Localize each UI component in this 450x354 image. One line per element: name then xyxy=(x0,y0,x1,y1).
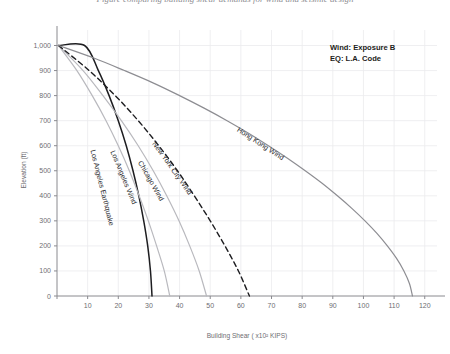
x-axis-tick-label: 40 xyxy=(176,302,184,309)
y-axis-tick-label: 300 xyxy=(39,217,51,224)
y-axis-tick-label: 100 xyxy=(39,267,51,274)
y-axis-tick-label: 500 xyxy=(39,167,51,174)
y-axis-tick-label: 200 xyxy=(39,242,51,249)
x-axis-tick-label: 60 xyxy=(237,302,245,309)
annotation-eq-code: EQ: L.A. Code xyxy=(330,54,381,63)
chart-svg: Los Angeles EarthquakeLos Angeles WindCh… xyxy=(0,0,450,354)
series-line xyxy=(59,44,152,296)
y-axis-tick-label: 900 xyxy=(39,67,51,74)
y-axis-title: Elevation (ft) xyxy=(20,151,28,188)
y-axis-tick-label: 1,000 xyxy=(33,42,51,49)
curve-label: Hong Kong Wind xyxy=(235,125,286,162)
x-axis-title: Building Shear ( x10² KIPS) xyxy=(207,332,288,340)
x-axis-tick-label: 10 xyxy=(84,302,92,309)
y-axis-tick-label: 0 xyxy=(47,293,51,300)
series-layer xyxy=(59,44,413,296)
y-axis-tick-label: 600 xyxy=(39,142,51,149)
annotation-layer: Wind: Exposure B EQ: L.A. Code xyxy=(330,43,396,63)
x-axis-tick-label: 120 xyxy=(419,302,431,309)
x-axis-tick-label: 80 xyxy=(298,302,306,309)
building-shear-chart: Los Angeles EarthquakeLos Angeles WindCh… xyxy=(0,0,450,354)
y-axis-tick-label: 400 xyxy=(39,192,51,199)
x-axis-tick-label: 50 xyxy=(206,302,214,309)
x-axis-tick-label: 110 xyxy=(389,302,400,309)
y-axis-tick-label: 800 xyxy=(39,92,51,99)
x-axis-tick-label: 90 xyxy=(329,302,337,309)
y-axis-tick-label: 700 xyxy=(39,117,51,124)
x-axis-tick-label: 30 xyxy=(145,302,153,309)
x-axis-tick-label: 20 xyxy=(114,302,122,309)
x-axis-tick-label: 100 xyxy=(358,302,370,309)
axis-layer xyxy=(54,26,445,299)
annotation-wind-exposure: Wind: Exposure B xyxy=(330,43,396,52)
x-axis-tick-label: 70 xyxy=(268,302,276,309)
